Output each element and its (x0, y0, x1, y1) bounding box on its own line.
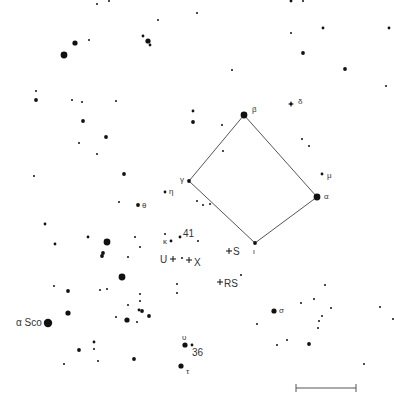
star-s32 (191, 120, 195, 124)
variable-label-S: S (233, 246, 240, 257)
star-s41 (44, 223, 47, 226)
star-s44 (54, 243, 57, 246)
star-s47 (197, 240, 199, 242)
star-s81 (276, 344, 278, 346)
star-36 (191, 344, 194, 347)
star-label-mu: μ (327, 171, 332, 180)
star-s75 (318, 320, 320, 322)
star-s34 (222, 150, 224, 152)
star-s55 (99, 289, 101, 291)
star-s2 (108, 0, 110, 2)
star-theta (136, 203, 140, 207)
star-s69 (240, 274, 242, 276)
star-s79 (256, 323, 258, 325)
star-s7 (61, 52, 68, 59)
star-label-41: 41 (183, 228, 195, 239)
star-s76 (317, 327, 319, 329)
star-s70 (324, 284, 326, 286)
star-s58 (139, 300, 141, 302)
star-s86 (77, 348, 81, 352)
star-s84 (93, 341, 96, 344)
star-s74 (321, 315, 323, 317)
star-sigma (271, 308, 276, 313)
star-s28 (96, 153, 98, 155)
star-s31 (192, 110, 195, 113)
star-s10 (149, 44, 152, 47)
star-s14 (388, 27, 391, 30)
star-s16 (301, 51, 305, 55)
star-s36 (308, 145, 310, 147)
star-s9 (145, 38, 150, 43)
star-s46 (139, 246, 141, 248)
star-s61 (127, 304, 129, 306)
star-s20 (35, 90, 37, 92)
star-s3 (196, 12, 198, 14)
star-s5 (72, 40, 77, 45)
star-beta (241, 112, 248, 119)
chart-background (0, 0, 394, 399)
star-41 (179, 236, 182, 239)
star-gamma (187, 179, 191, 183)
star-s68 (136, 321, 138, 323)
star-s80 (286, 339, 288, 341)
star-s54 (66, 289, 70, 293)
star-s88 (63, 363, 65, 365)
star-s4 (157, 19, 159, 21)
star-s85 (93, 348, 95, 350)
star-s64 (147, 314, 151, 318)
variable-label-RS: RS (224, 278, 238, 289)
star-s18 (385, 85, 387, 87)
star-s83 (363, 363, 365, 365)
star-s8 (142, 35, 145, 38)
star-kappa (170, 240, 173, 243)
star-chart: βαιγδμηθκ41συ36τα ScoUXSRS (0, 0, 394, 399)
star-s15 (290, 32, 292, 34)
variable-label-U: U (160, 254, 167, 265)
variable-label-X: X (194, 257, 201, 268)
star-s17 (343, 67, 347, 71)
star-s51 (181, 257, 183, 259)
star-iota (253, 241, 257, 245)
star-delta (290, 103, 293, 106)
star-s19 (231, 69, 233, 71)
star-s43 (104, 239, 111, 246)
star-s52 (119, 274, 126, 281)
star-s72 (300, 302, 302, 304)
star-s30 (122, 172, 126, 176)
star-s77 (379, 306, 381, 308)
star-s56 (106, 288, 108, 290)
star-label-36: 36 (192, 347, 204, 358)
star-s40 (209, 203, 211, 205)
star-s87 (97, 360, 99, 362)
star-s63 (140, 309, 144, 313)
star-s25 (81, 119, 85, 123)
star-s73 (330, 307, 332, 309)
star-s89 (132, 357, 136, 361)
star-label-beta: β (252, 105, 257, 114)
star-alphaSco (44, 319, 52, 327)
star-s71 (313, 298, 315, 300)
star-label-upsilon: υ (182, 333, 186, 342)
star-s62 (138, 309, 141, 312)
star-eta (164, 191, 167, 194)
star-s66 (115, 316, 117, 318)
star-s67 (124, 317, 129, 322)
star-s37 (118, 201, 120, 203)
star-alpha (314, 194, 321, 201)
star-s33 (221, 124, 223, 126)
star-s53 (53, 285, 55, 287)
star-s45 (134, 236, 136, 238)
star-s35 (301, 138, 303, 140)
star-label-sigma: σ (279, 306, 284, 315)
star-s42 (87, 236, 90, 239)
star-s26 (104, 135, 108, 139)
star-mu (321, 173, 324, 176)
star-s22 (71, 99, 73, 101)
star-label-gamma: γ (180, 175, 184, 184)
star-s57 (139, 293, 141, 295)
star-tau (178, 363, 183, 368)
star-s24 (115, 100, 117, 102)
star-s65 (65, 310, 70, 315)
star-s12 (302, 0, 304, 2)
star-s29 (33, 175, 35, 177)
